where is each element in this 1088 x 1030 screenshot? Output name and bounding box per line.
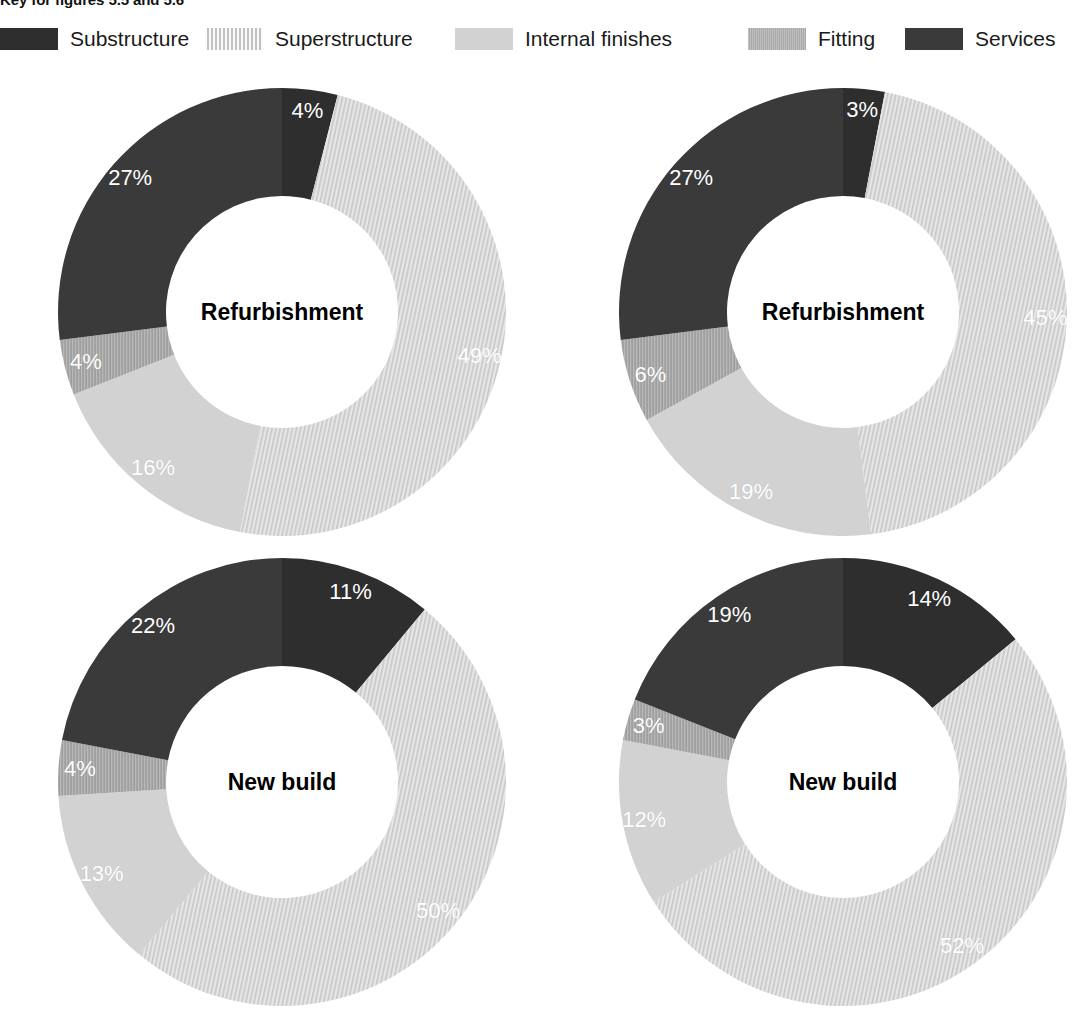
legend-item-internal-finishes: Internal finishes — [455, 24, 672, 54]
legend-label-substructure: Substructure — [70, 28, 189, 50]
slice-superstructure — [858, 92, 1067, 534]
substructure-swatch-icon — [0, 28, 58, 50]
slice-services — [58, 88, 282, 340]
slice-services — [619, 88, 843, 340]
donut-chart-bottom-right: New build14%52%12%3%19% — [615, 554, 1071, 1010]
legend-label-fitting: Fitting — [818, 28, 875, 50]
legend-item-services: Services — [905, 24, 1056, 54]
services-swatch-icon — [905, 28, 963, 50]
legend-label-internal-finishes: Internal finishes — [525, 28, 672, 50]
legend-item-fitting: Fitting — [748, 24, 875, 54]
legend-item-substructure: Substructure — [0, 24, 189, 54]
donut-chart-top-left: Refurbishment4%49%16%4%27% — [54, 84, 510, 540]
legend: Substructure Superstructure Internal fin… — [0, 24, 1088, 54]
slice-services — [62, 558, 282, 760]
legend-label-services: Services — [975, 28, 1056, 50]
legend-label-superstructure: Superstructure — [275, 28, 413, 50]
donut-chart-bottom-left: New build11%50%13%4%22% — [54, 554, 510, 1010]
figure-caption: Key for figures 5.5 and 5.6 — [0, 0, 184, 8]
legend-item-superstructure: Superstructure — [205, 24, 413, 54]
fitting-swatch-icon — [748, 28, 806, 50]
internal-finishes-swatch-icon — [455, 28, 513, 50]
donut-chart-top-right: Refurbishment3%45%19%6%27% — [615, 84, 1071, 540]
superstructure-swatch-icon — [205, 28, 263, 50]
